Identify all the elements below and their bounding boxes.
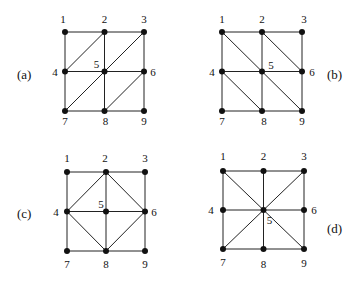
diagram-caption: (a) [17, 67, 31, 82]
node-label-1: 1 [219, 13, 225, 25]
node-label-6: 6 [311, 204, 317, 216]
node-label-7: 7 [64, 258, 70, 270]
node-1 [219, 29, 225, 35]
node-9 [299, 108, 305, 114]
node-label-3: 3 [141, 13, 147, 25]
node-3 [301, 168, 307, 174]
node-2 [261, 168, 267, 174]
node-label-8: 8 [261, 258, 267, 270]
node-8 [259, 108, 265, 114]
node-label-5: 5 [98, 198, 104, 210]
node-label-7: 7 [219, 115, 225, 127]
diagram-caption: (b) [327, 67, 342, 82]
node-6 [301, 207, 307, 213]
node-label-9: 9 [142, 258, 148, 270]
node-label-8: 8 [103, 115, 109, 127]
node-label-1: 1 [64, 152, 70, 164]
node-7 [64, 248, 70, 254]
node-3 [299, 29, 305, 35]
node-label-9: 9 [141, 115, 147, 127]
node-1 [220, 168, 226, 174]
edge-1-5 [223, 171, 264, 210]
diagram-d: 123456789(d) [208, 150, 342, 270]
node-5 [103, 209, 109, 215]
node-5 [259, 69, 265, 75]
edge-1-5 [222, 32, 262, 72]
node-label-2: 2 [102, 152, 108, 164]
edge-6-8 [105, 72, 145, 112]
node-8 [103, 248, 109, 254]
node-6 [299, 69, 305, 75]
node-9 [142, 248, 148, 254]
node-2 [259, 29, 265, 35]
node-9 [301, 246, 307, 252]
node-label-6: 6 [309, 66, 315, 78]
node-label-7: 7 [220, 256, 226, 268]
node-label-2: 2 [261, 150, 267, 162]
node-label-6: 6 [151, 206, 157, 218]
node-label-1: 1 [60, 13, 66, 25]
diagram-caption: (c) [17, 206, 31, 221]
node-5 [261, 207, 267, 213]
diagram-caption: (d) [327, 221, 342, 236]
node-label-7: 7 [62, 115, 68, 127]
edge-5-7 [223, 210, 264, 249]
node-4 [64, 209, 70, 215]
node-8 [102, 108, 108, 114]
node-4 [219, 69, 225, 75]
node-label-4: 4 [52, 66, 58, 78]
node-label-3: 3 [142, 152, 148, 164]
node-7 [219, 108, 225, 114]
node-label-2: 2 [102, 13, 108, 25]
node-2 [103, 169, 109, 175]
node-8 [261, 246, 267, 252]
node-label-4: 4 [53, 206, 59, 218]
edge-2-6 [106, 172, 145, 212]
node-6 [142, 209, 148, 215]
edge-5-7 [65, 72, 105, 112]
edge-4-8 [222, 72, 262, 112]
node-7 [62, 108, 68, 114]
node-5 [102, 69, 108, 75]
node-6 [141, 69, 147, 75]
node-label-9: 9 [301, 257, 307, 269]
node-3 [141, 29, 147, 35]
node-3 [142, 169, 148, 175]
diagram-c: 123456789(c) [17, 152, 157, 270]
node-label-3: 3 [301, 13, 307, 25]
mesh-diagrams-canvas: 123456789(a)123456789(b)123456789(c)1234… [0, 0, 360, 285]
node-1 [64, 169, 70, 175]
node-4 [62, 69, 68, 75]
node-label-6: 6 [150, 66, 156, 78]
node-label-8: 8 [103, 258, 109, 270]
node-2 [102, 29, 108, 35]
node-label-4: 4 [209, 66, 215, 78]
edge-3-5 [264, 171, 305, 210]
edge-3-5 [105, 32, 145, 72]
edge-6-8 [106, 212, 145, 252]
edge-5-9 [262, 72, 302, 112]
node-label-5: 5 [94, 58, 100, 70]
node-label-1: 1 [220, 150, 226, 162]
node-9 [141, 108, 147, 114]
node-label-4: 4 [208, 204, 214, 216]
node-label-9: 9 [299, 115, 305, 127]
node-label-3: 3 [301, 150, 307, 162]
node-4 [220, 207, 226, 213]
edge-4-8 [67, 212, 106, 252]
node-1 [62, 29, 68, 35]
node-label-8: 8 [261, 115, 267, 127]
node-label-5: 5 [267, 214, 273, 226]
diagram-b: 123456789(b) [209, 13, 342, 127]
node-7 [220, 246, 226, 252]
node-label-5: 5 [268, 59, 274, 71]
diagram-a: 123456789(a) [17, 13, 156, 127]
node-label-2: 2 [259, 13, 265, 25]
